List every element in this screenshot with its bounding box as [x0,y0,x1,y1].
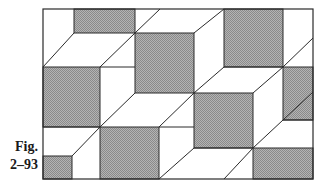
pattern-line [100,33,135,67]
pattern-line [100,93,135,127]
shaded-square-C [135,33,194,93]
pattern-figure [0,0,328,188]
shaded-square-A [74,9,135,33]
pattern-line [253,120,283,148]
figure-label-fig: Fig. [2,139,38,155]
shaded-square-E [283,67,313,120]
shaded-square-B [43,67,100,127]
pattern-line [194,67,224,93]
pattern-line [194,9,224,33]
shaded-square-G [253,148,313,179]
shaded-square-F [194,93,253,148]
figure-label-number: 2–93 [2,157,38,173]
shaded-square-D [224,9,283,67]
pattern-line [224,148,253,179]
pattern-line [72,127,100,156]
shaded-squares [43,9,313,179]
pattern-line [253,67,283,93]
pattern-line [159,148,194,179]
shaded-square-I [43,156,72,179]
pattern-line [135,9,160,33]
pattern-line [283,38,313,67]
shaded-square-H [100,127,159,179]
pattern-line [159,93,194,127]
pattern-line [43,33,74,67]
